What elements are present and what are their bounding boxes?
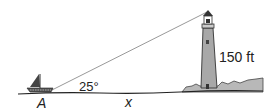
tower-window bbox=[206, 40, 209, 44]
line-of-sight bbox=[52, 12, 207, 90]
height-label: 150 ft bbox=[219, 50, 254, 64]
lighthouse-gallery bbox=[202, 24, 214, 28]
lighthouse-tower bbox=[201, 28, 217, 88]
angle-label: 25° bbox=[79, 80, 99, 93]
lantern-window bbox=[206, 19, 210, 23]
point-a-label: A bbox=[37, 96, 46, 110]
distance-label: x bbox=[125, 95, 132, 109]
shoreline-rocks bbox=[182, 78, 263, 92]
tower-door bbox=[206, 84, 209, 89]
sailboat-sail bbox=[30, 74, 40, 87]
